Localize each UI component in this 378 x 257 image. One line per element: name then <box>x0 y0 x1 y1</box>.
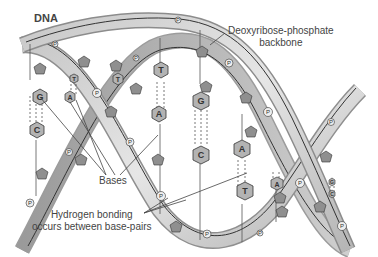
svg-text:C: C <box>198 150 205 160</box>
svg-text:T: T <box>242 186 248 196</box>
base-T-4: T <box>154 62 168 78</box>
base-T-3: T <box>113 73 123 85</box>
base-T-6: T <box>237 182 253 200</box>
svg-text:P: P <box>329 119 333 125</box>
svg-text:T: T <box>116 76 121 83</box>
svg-text:P: P <box>128 139 132 145</box>
svg-text:P: P <box>67 149 71 155</box>
svg-text:P: P <box>28 200 32 206</box>
base-A-7: A <box>271 177 283 190</box>
hbond-label-line1: Hydrogen bonding <box>32 209 152 221</box>
svg-text:A: A <box>67 94 72 101</box>
base-A-2: A <box>65 91 75 103</box>
svg-text:A: A <box>239 144 246 154</box>
base-G-5: G <box>193 92 209 110</box>
bases-label: Bases <box>99 175 127 187</box>
base-G-8: G <box>329 178 335 186</box>
svg-text:T: T <box>158 65 164 75</box>
svg-text:P: P <box>227 60 231 66</box>
svg-text:P: P <box>266 109 270 115</box>
svg-text:T: T <box>72 76 76 82</box>
base-A-6: A <box>234 140 250 158</box>
svg-text:P: P <box>298 180 302 186</box>
base-C-1: C <box>30 122 44 138</box>
svg-text:P: P <box>176 17 180 23</box>
svg-text:A: A <box>156 109 163 119</box>
svg-text:A: A <box>274 181 279 188</box>
backbone-label-line1: Deoxyribose-phosphate <box>228 25 334 37</box>
svg-text:P: P <box>134 55 138 61</box>
svg-text:P: P <box>258 230 262 236</box>
base-C-8: C <box>329 190 335 198</box>
base-C-5: C <box>193 146 209 164</box>
svg-text:P: P <box>95 90 99 96</box>
svg-text:G: G <box>330 179 334 185</box>
base-T-2: T <box>70 74 78 83</box>
svg-text:P: P <box>205 231 209 237</box>
dna-diagram: DNA <box>0 0 378 257</box>
backbone-label-line2: backbone <box>228 37 334 49</box>
svg-text:P: P <box>340 223 344 229</box>
backbone-label: Deoxyribose-phosphate backbone <box>228 25 334 49</box>
svg-text:P: P <box>159 193 163 199</box>
svg-text:C: C <box>330 191 334 197</box>
base-A-4: A <box>152 106 166 122</box>
hbond-label-line2: occurs between base-pairs <box>32 221 152 233</box>
svg-text:P: P <box>53 41 57 47</box>
svg-text:G: G <box>197 96 204 106</box>
hydrogen-bonding-label: Hydrogen bonding occurs between base-pai… <box>32 209 152 233</box>
svg-text:C: C <box>34 125 41 135</box>
